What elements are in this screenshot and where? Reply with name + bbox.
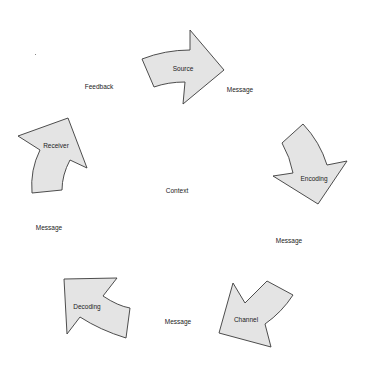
connector-label-encoding-channel: Message — [276, 237, 302, 244]
center-context-label: Context — [166, 187, 188, 194]
stray-dot — [35, 54, 36, 55]
channel-arrow-shape — [219, 281, 293, 347]
stage-label-source: Source — [173, 65, 194, 72]
connector-label-channel-decoding: Message — [165, 318, 191, 325]
receiver-arrow-shape — [18, 118, 87, 193]
stage-label-channel: Channel — [234, 316, 258, 323]
connector-label-receiver-source: Feedback — [85, 83, 114, 90]
encoding-arrow-shape — [273, 124, 347, 204]
connector-label-decoding-receiver: Message — [36, 224, 62, 231]
stage-label-encoding: Encoding — [300, 175, 327, 182]
stage-label-receiver: Receiver — [43, 142, 69, 149]
stage-label-decoding: Decoding — [73, 303, 100, 310]
connector-label-source-encoding: Message — [227, 86, 253, 93]
communication-cycle-diagram — [0, 0, 365, 366]
